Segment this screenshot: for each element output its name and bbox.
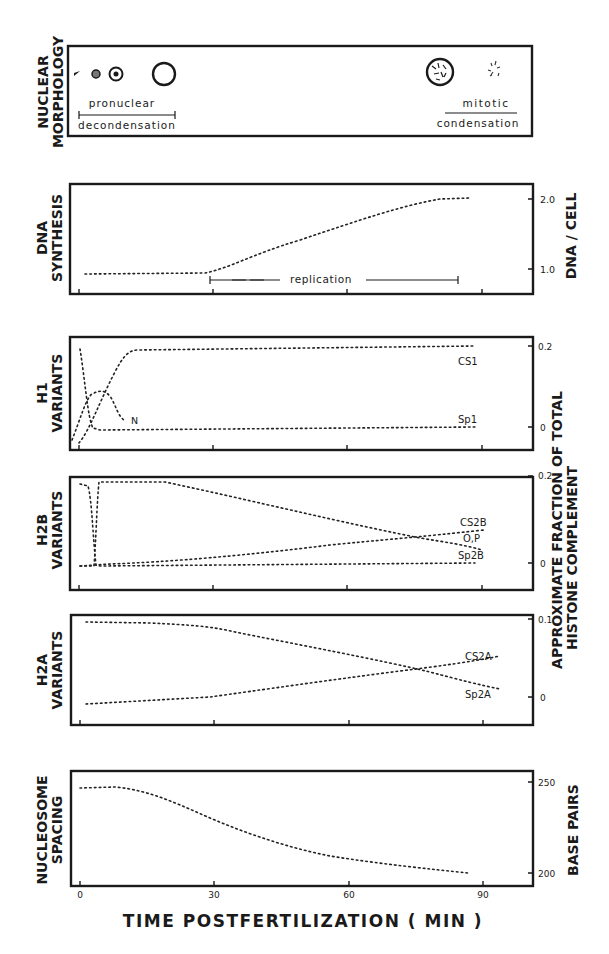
ytick-lo: 0 (540, 559, 546, 569)
sperm-nucleus-icon (74, 71, 80, 76)
panel-label-line2: SYNTHESIS (49, 194, 65, 282)
xtick-90: 90 (477, 890, 489, 900)
panel-label-line1: NUCLEOSOME (34, 775, 50, 884)
series-label-n: N (131, 415, 138, 426)
series-cs2a-line (86, 656, 500, 704)
panel-label-line2: VARIANTS (49, 631, 65, 710)
panel-frame (71, 771, 533, 886)
panel-nucleosome-spacing: NUCLEOSOME SPACING 250 200 BASE PAIRS (34, 771, 581, 886)
shared-right-label-line2: HISTONE COMPLEMENT (564, 465, 580, 650)
panel-label-line2: VARIANTS (49, 491, 65, 570)
panel-label-line1: H2A (34, 654, 50, 686)
annotation-pronuclear: pronuclear (89, 97, 155, 109)
ytick-hi: 2.0 (540, 194, 555, 205)
panel-label-line1: DNA (34, 221, 50, 255)
series-sp1-line (80, 349, 475, 430)
series-label-sp2b: Sp2B (458, 550, 484, 561)
annotation-replication: replication (290, 273, 352, 285)
ytick-lo: 0 (540, 423, 546, 433)
panel-label-line2: MORPHOLOGY (50, 35, 66, 148)
series-sp2b-line (80, 484, 475, 566)
spacing-line (80, 787, 468, 873)
panel-frame (71, 615, 533, 725)
series-label-op: O,P (463, 533, 480, 544)
x-axis-label: TIME POSTFERTILIZATION ( MIN ) (123, 911, 483, 931)
series-label-sp2a: Sp2A (465, 689, 491, 700)
annotation-mitotic: mitotic (463, 97, 510, 109)
panel-nuclear-morphology: NUCLEAR MORPHOLOGY pronuclear decondensa… (35, 35, 532, 148)
x-axis: 0 30 60 90 TIME POSTFERTILIZATION ( MIN … (77, 890, 489, 931)
decondensed-pronucleus-icon (153, 63, 175, 85)
ytick-lo: 0 (540, 693, 546, 703)
series-cs2b-line (80, 530, 484, 566)
panel-label-line1: H1 (34, 382, 50, 403)
series-label-cs1: CS1 (458, 356, 478, 367)
panel-label-line2: SPACING (49, 796, 65, 865)
panel-label-line2: VARIANTS (49, 354, 65, 433)
annotation-decondensation: decondensation (78, 119, 176, 131)
right-axis-label: DNA / CELL (563, 193, 579, 280)
decondensation-range-bar (79, 111, 175, 119)
xtick-30: 30 (208, 890, 220, 900)
series-label-sp1: Sp1 (458, 414, 477, 425)
series-sp2a-line (86, 622, 500, 689)
series-label-cs2b: CS2B (460, 517, 487, 528)
early-pronucleus-icon (92, 70, 100, 78)
annotation-condensation: condensation (437, 117, 520, 129)
panel-label-line1: H2B (34, 514, 50, 546)
pronucleus-icon (110, 68, 123, 81)
condensed-chromosomes-icon (488, 61, 500, 76)
series-op-line (80, 482, 482, 566)
shared-right-axis-label: APPROXIMATE FRACTION OF TOTAL HISTONE CO… (549, 391, 580, 669)
panel-h2a-variants: H2A VARIANTS 0.1 0 CS2A Sp2A (34, 615, 552, 725)
panel-frame (70, 337, 533, 450)
panel-dna-synthesis: DNA SYNTHESIS 2.0 1.0 DNA / CELL replica… (34, 184, 579, 294)
series-label-cs2a: CS2A (465, 651, 492, 662)
histone-timeline-figure: .box { fill:none; stroke:#1a1a1a; stroke… (0, 0, 609, 954)
dna-per-cell-line (85, 198, 470, 274)
xtick-60: 60 (343, 890, 355, 900)
panel-h2b-variants: H2B VARIANTS 0.2 0 CS2B O,P Sp2B (34, 471, 552, 590)
ytick-lo: 200 (538, 869, 555, 879)
shared-right-label-line1: APPROXIMATE FRACTION OF TOTAL (549, 391, 565, 669)
ytick-hi: 0.2 (538, 342, 552, 352)
right-axis-label: BASE PAIRS (565, 784, 581, 876)
ytick-lo: 1.0 (540, 264, 555, 275)
prophase-nucleus-icon (427, 59, 453, 85)
panel-label-line1: NUCLEAR (35, 55, 51, 129)
panel-h1-variants: H1 VARIANTS 0.2 0 N CS1 Sp1 (34, 337, 552, 450)
xtick-0: 0 (77, 890, 83, 900)
series-n-line (72, 391, 126, 440)
ytick-hi: 250 (538, 778, 555, 788)
